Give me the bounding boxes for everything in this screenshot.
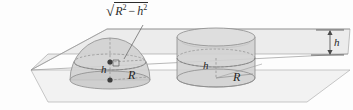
radical-sign: √: [106, 3, 114, 19]
hemisphere-height-label: h: [101, 63, 107, 75]
center-dot-cross-section: [107, 59, 112, 64]
radicand-R: R: [115, 4, 122, 18]
hemisphere-radius-label: R: [128, 68, 135, 83]
figure-svg: [0, 0, 353, 110]
cylinder-solid: [177, 28, 262, 87]
cylinder-height-label: h: [203, 59, 209, 71]
radicand-operator: −: [127, 4, 138, 18]
center-dot-base: [107, 77, 112, 82]
plane-gap-height-label: h: [334, 36, 340, 48]
cylinder-radius-label: R: [233, 70, 240, 85]
cross-section-radius-label: √ R2−h2: [106, 2, 148, 20]
radicand-h-exponent: 2: [143, 3, 147, 12]
radicand-R-exponent: 2: [123, 3, 127, 12]
cylinder-top-ellipse: [177, 28, 255, 46]
radicand: R2−h2: [114, 2, 148, 19]
geometry-figure: √ R2−h2 h R h R h: [0, 0, 353, 110]
